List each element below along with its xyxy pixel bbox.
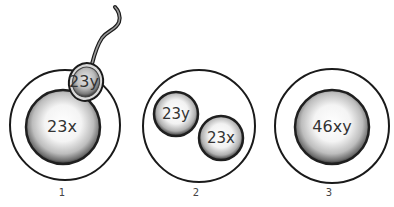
stage-3: 46xy 3 <box>275 69 389 198</box>
sperm-head-label: 23y <box>69 72 99 91</box>
stage-number-2: 2 <box>193 187 199 198</box>
stage-number-1: 1 <box>59 187 65 198</box>
egg-nucleus-label: 23x <box>47 117 77 136</box>
stage-1: 23x 23y 1 <box>10 7 120 198</box>
stage-2: 23y 23x 2 <box>143 70 255 198</box>
pronucleus-female-label: 23x <box>207 129 235 147</box>
zygote-nucleus-label: 46xy <box>312 117 351 136</box>
fertilization-diagram: 23x 23y 1 23y 23x 2 46xy 3 <box>0 0 394 207</box>
pronucleus-male-label: 23y <box>162 105 190 123</box>
stage-number-3: 3 <box>326 187 332 198</box>
sperm-tail <box>92 7 120 64</box>
